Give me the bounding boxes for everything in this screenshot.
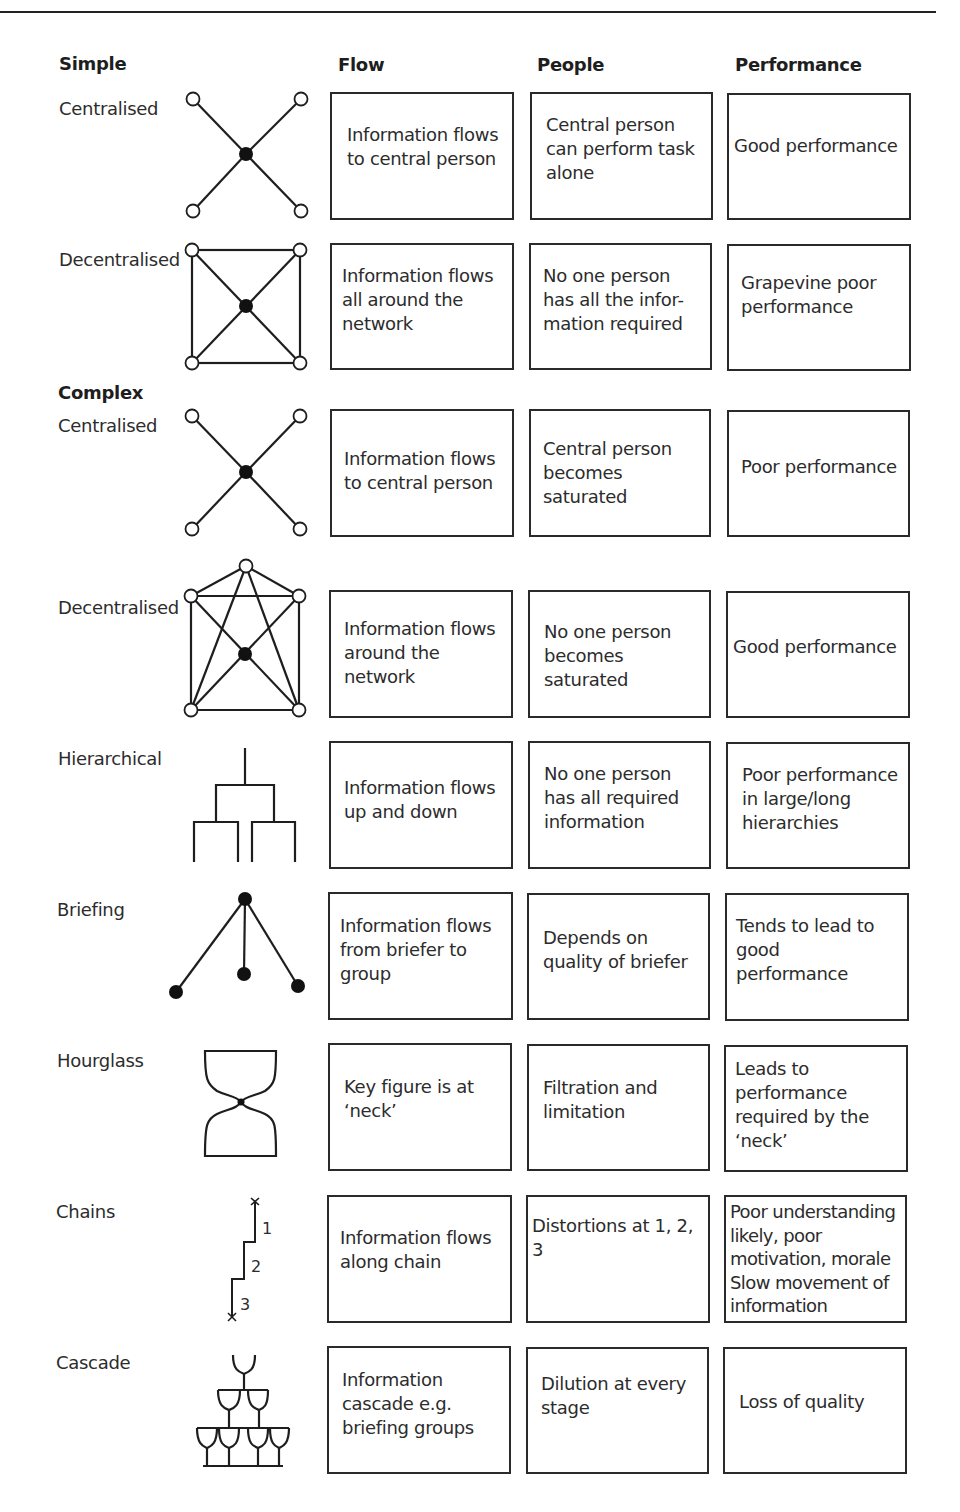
people-cell: Central person can perform task alone bbox=[530, 92, 713, 220]
people-cell: No one person has all the infor- mation … bbox=[529, 243, 712, 370]
row-label-complex-decentralised: Decentralised bbox=[58, 597, 179, 618]
flow-cell: Information flows up and down bbox=[329, 741, 513, 869]
performance-cell: Grapevine poor performance bbox=[727, 244, 911, 371]
performance-cell: Good performance bbox=[726, 591, 910, 718]
row-label-cascade: Cascade bbox=[56, 1352, 130, 1373]
column-header-people: People bbox=[537, 54, 604, 75]
flow-cell: Information flows all around the network bbox=[330, 243, 514, 370]
people-cell: No one person becomes saturated bbox=[528, 590, 711, 718]
briefing-fan-icon bbox=[165, 888, 315, 1008]
performance-cell: Poor performance bbox=[727, 410, 910, 537]
chain-steps-icon: 1 2 3 bbox=[220, 1190, 280, 1325]
people-cell: Distortions at 1, 2, 3 bbox=[526, 1195, 710, 1323]
hourglass-icon bbox=[195, 1044, 290, 1164]
row-label-hierarchical: Hierarchical bbox=[58, 748, 162, 769]
people-cell: No one person has all required informati… bbox=[528, 741, 711, 869]
svg-text:1: 1 bbox=[262, 1219, 272, 1238]
flow-cell: Information flows to central person bbox=[330, 92, 514, 220]
performance-cell: Loss of quality bbox=[723, 1347, 907, 1474]
star-network-icon bbox=[180, 88, 315, 223]
flow-cell: Key figure is at ‘neck’ bbox=[328, 1043, 512, 1171]
performance-cell: Poor performance in large/long hierarchi… bbox=[726, 742, 910, 869]
flow-cell: Information flows to central person bbox=[330, 409, 514, 537]
square-network-icon bbox=[180, 238, 315, 373]
hierarchy-tree-icon bbox=[180, 740, 315, 870]
svg-text:3: 3 bbox=[240, 1295, 250, 1314]
flow-cell: Information flows around the network bbox=[329, 590, 513, 718]
performance-cell: Tends to lead to good performance bbox=[725, 893, 909, 1021]
column-header-performance: Performance bbox=[735, 54, 862, 75]
flow-cell: Information flows along chain bbox=[327, 1195, 512, 1323]
flow-cell: Information cascade e.g. briefing groups bbox=[327, 1346, 511, 1474]
row-label-simple-decentralised: Decentralised bbox=[59, 249, 180, 270]
top-rule bbox=[0, 11, 936, 13]
people-cell: Depends on quality of briefer bbox=[527, 893, 710, 1020]
section-heading-complex: Complex bbox=[58, 382, 143, 403]
people-cell: Filtration and limitation bbox=[527, 1044, 710, 1171]
row-label-hourglass: Hourglass bbox=[57, 1050, 144, 1071]
pentagon-network-icon bbox=[180, 555, 315, 720]
row-label-complex-centralised: Centralised bbox=[58, 415, 157, 436]
people-cell: Dilution at every stage bbox=[526, 1347, 709, 1474]
star-network-icon bbox=[180, 405, 315, 540]
people-cell: Central person becomes saturated bbox=[529, 409, 711, 537]
row-label-briefing: Briefing bbox=[57, 899, 125, 920]
section-heading-simple: Simple bbox=[59, 53, 126, 74]
row-label-chains: Chains bbox=[56, 1201, 115, 1222]
performance-cell: Poor understanding likely, poor motivati… bbox=[724, 1195, 907, 1323]
column-header-flow: Flow bbox=[338, 54, 384, 75]
row-label-simple-centralised: Centralised bbox=[59, 98, 158, 119]
svg-text:2: 2 bbox=[251, 1257, 261, 1276]
flow-cell: Information flows from briefer to group bbox=[328, 892, 513, 1020]
performance-cell: Good performance bbox=[727, 93, 911, 220]
glass-cascade-icon bbox=[193, 1348, 293, 1473]
performance-cell: Leads to performance required by the ‘ne… bbox=[724, 1045, 908, 1172]
